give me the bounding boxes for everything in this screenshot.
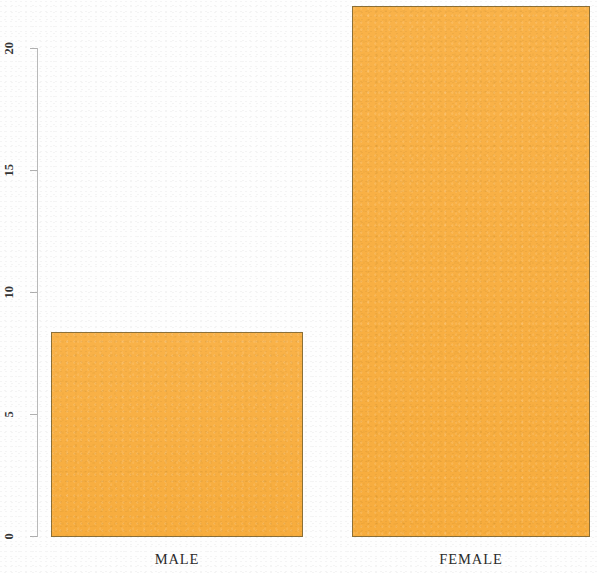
y-tick-label-5: 5 <box>0 407 22 421</box>
y-tick-mark-20 <box>30 48 37 49</box>
y-tick-label-5-text: 5 <box>3 411 16 417</box>
y-tick-label-0: 0 <box>0 529 22 543</box>
y-tick-label-20: 20 <box>0 41 22 55</box>
y-axis-line <box>37 48 38 537</box>
y-tick-label-20-text: 20 <box>3 42 16 55</box>
y-tick-label-10-text: 10 <box>3 286 16 299</box>
y-tick-label-15: 15 <box>0 163 22 177</box>
bar-chart: 20 15 10 5 0 MALE FEMALE <box>0 0 597 573</box>
y-tick-mark-10 <box>30 292 37 293</box>
y-tick-label-15-text: 15 <box>3 164 16 177</box>
y-tick-mark-5 <box>30 414 37 415</box>
y-tick-label-10: 10 <box>0 285 22 299</box>
bar-female <box>352 6 590 537</box>
y-tick-mark-15 <box>30 170 37 171</box>
bar-male <box>51 332 303 537</box>
x-axis-label-male: MALE <box>51 551 303 568</box>
y-tick-mark-0 <box>30 536 37 537</box>
y-tick-label-0-text: 0 <box>3 533 16 539</box>
x-axis-label-female: FEMALE <box>352 551 590 568</box>
